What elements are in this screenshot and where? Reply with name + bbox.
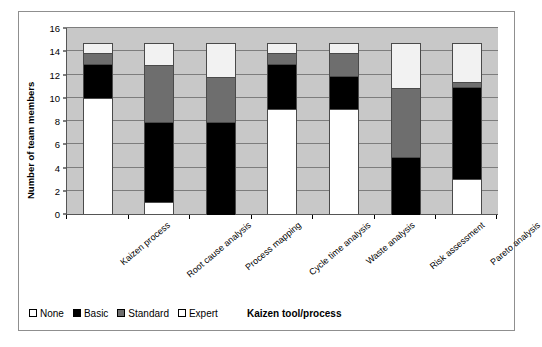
bar-segment-standard [391,88,421,158]
bar-segment-none [144,202,174,214]
bar-segment-basic [452,87,482,180]
x-axis-title: Kaizen tool/process [247,305,341,321]
legend-label: None [40,308,64,319]
chart-figure: Number of team members 0246810121416 Kai… [18,11,515,331]
stacked-bar[interactable] [452,43,482,214]
y-tick-label: 12 [49,69,60,80]
bar-segment-standard [206,77,236,124]
bar-segment-expert [206,43,236,78]
bar-segment-basic [267,64,297,111]
x-category-label: Risk assessment [428,220,487,271]
plot-wrapper: Number of team members 0246810121416 Kai… [19,12,514,330]
stacked-bar[interactable] [83,43,113,214]
stacked-bar[interactable] [391,43,421,214]
legend-swatch-icon [117,309,125,317]
y-tick-label: 16 [49,23,60,34]
bar-segment-standard [329,53,359,76]
bar-segment-standard [144,65,174,123]
legend-label: Standard [128,308,169,319]
bar-segment-expert [452,43,482,84]
bar-slot [190,28,252,214]
bar-slot [67,28,129,214]
y-tick-label: 8 [55,116,60,127]
legend-swatch-icon [73,309,81,317]
x-axis-category-labels: Kaizen processRoot cause analysisProcess… [66,218,497,300]
bar-segment-basic [329,76,359,111]
bar-segment-basic [83,64,113,99]
x-category-label: Cycle time analysis [307,220,372,277]
bar-segment-none [83,98,113,214]
bar-slot [313,28,375,214]
bar-segment-none [267,109,297,214]
chart-legend: NoneBasicStandardExpert [29,305,218,321]
legend-item[interactable]: Basic [73,308,108,319]
stacked-bar[interactable] [329,43,359,214]
stacked-bar[interactable] [267,43,297,214]
y-axis-title: Number of team members [25,60,39,220]
bar-segment-none [452,179,482,214]
bar-segment-expert [391,43,421,90]
y-tick-label: 2 [55,185,60,196]
y-tick-label: 10 [49,92,60,103]
y-axis-ticks: 0246810121416 [39,28,63,214]
bar-slot [252,28,314,214]
legend-label: Basic [84,308,108,319]
bar-slot [375,28,437,214]
bar-slot [129,28,191,214]
legend-label: Expert [189,308,218,319]
legend-item[interactable]: Standard [117,308,169,319]
plot-area [66,28,498,215]
legend-swatch-icon [178,309,186,317]
x-category-label: Root cause analysis [185,220,253,279]
bar-segment-expert [144,43,174,66]
y-tick-label: 14 [49,46,60,57]
y-tick-label: 4 [55,162,60,173]
x-category-label: Pareto analysis [488,220,542,267]
y-tick-label: 0 [55,209,60,220]
y-tick-label: 6 [55,139,60,150]
bar-segment-none [329,109,359,214]
bar-slot [436,28,498,214]
legend-item[interactable]: None [29,308,64,319]
legend-item[interactable]: Expert [178,308,218,319]
bar-segment-basic [144,122,174,203]
bar-segment-basic [391,157,421,215]
legend-swatch-icon [29,309,37,317]
bar-segment-basic [206,122,236,215]
stacked-bar[interactable] [206,43,236,214]
stacked-bar[interactable] [144,43,174,214]
x-category-label: Kaizen process [119,220,173,267]
